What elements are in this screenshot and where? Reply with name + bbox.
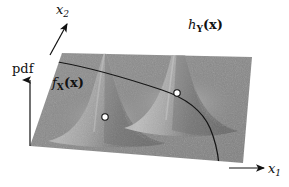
pdf-axis-label: pdf	[12, 62, 33, 75]
x2-axis-label: x2	[56, 3, 69, 19]
marker-left[interactable]	[102, 114, 108, 120]
x1-axis-label: x1	[268, 162, 281, 178]
diagram-scene	[0, 0, 289, 187]
x2-axis	[50, 24, 67, 55]
left-peak-label: fX(x)	[52, 76, 84, 91]
right-peak-label: hY(x)	[188, 18, 223, 33]
figure-canvas: x2 x1 pdf hY(x) fX(x)	[0, 0, 289, 187]
marker-right[interactable]	[174, 90, 180, 96]
